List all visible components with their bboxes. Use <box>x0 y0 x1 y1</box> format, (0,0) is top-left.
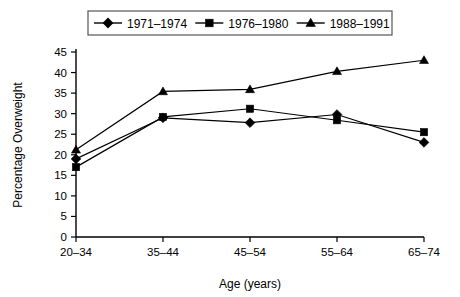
data-point-diamond <box>71 154 81 164</box>
y-tick-label: 5 <box>61 210 67 222</box>
legend-marker-square <box>206 19 214 27</box>
x-tick-label: 35–44 <box>147 246 180 258</box>
y-tick-label: 45 <box>54 46 67 58</box>
legend-entry-label: 1971–1974 <box>127 17 187 31</box>
x-tick-label: 45–54 <box>234 246 267 258</box>
x-axis-title: Age (years) <box>219 277 281 291</box>
data-point-diamond <box>419 138 429 148</box>
legend-entry-1: 1971–1974 <box>94 17 187 31</box>
x-tick-label: 55–64 <box>321 246 354 258</box>
y-axis-title: Percentage Overweight <box>11 82 25 208</box>
y-tick-label: 40 <box>54 67 67 79</box>
y-tick-label: 35 <box>54 87 67 99</box>
y-tick-label: 0 <box>61 231 67 243</box>
data-point-square <box>246 105 253 112</box>
x-tick-label: 65–74 <box>408 246 441 258</box>
y-tick-label: 10 <box>54 190 67 202</box>
data-point-square <box>159 113 166 120</box>
chart-legend: 1971–19741976–19801988–1991 <box>88 11 392 35</box>
x-axis: 20–3435–4445–5455–6465–74 <box>60 237 441 258</box>
data-point-square <box>420 129 427 136</box>
legend-entry-3: 1988–1991 <box>297 17 390 31</box>
y-axis: 051015202530354045 <box>54 46 76 243</box>
y-tick-label: 30 <box>54 108 67 120</box>
y-tick-label: 15 <box>54 169 67 181</box>
series-2 <box>72 105 427 171</box>
data-point-square <box>333 117 340 124</box>
y-tick-label: 25 <box>54 128 67 140</box>
y-tick-label: 20 <box>54 149 67 161</box>
legend-entry-label: 1988–1991 <box>330 17 390 31</box>
legend-entry-2: 1976–1980 <box>195 17 288 31</box>
data-point-diamond <box>245 118 255 128</box>
chart-series-layer <box>71 56 429 171</box>
overweight-line-chart: 1971–19741976–19801988–1991 051015202530… <box>0 0 460 297</box>
x-tick-label: 20–34 <box>60 246 93 258</box>
legend-marker-diamond <box>103 18 113 28</box>
data-point-triangle <box>420 56 429 64</box>
data-point-triangle <box>72 145 81 153</box>
legend-entry-label: 1976–1980 <box>228 17 288 31</box>
data-point-square <box>72 164 79 171</box>
